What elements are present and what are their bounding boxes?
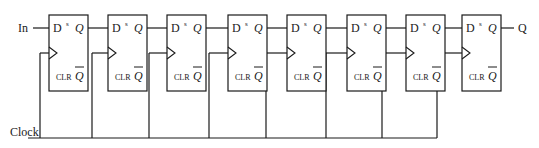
set-label: s: [66, 20, 69, 28]
clr-label: CLR: [115, 73, 131, 82]
d-flip-flop: DsQCLRQ: [406, 15, 445, 91]
q-output-label: Q: [254, 21, 263, 35]
q-bar-output-label: Q: [75, 69, 84, 83]
d-input-label: D: [171, 21, 180, 35]
clr-label: CLR: [469, 73, 485, 82]
d-input-label: D: [466, 21, 475, 35]
d-flip-flop: DsQCLRQ: [108, 15, 147, 91]
d-input-label: D: [53, 21, 62, 35]
q-output-label: Q: [432, 21, 441, 35]
clock-label: Clock: [10, 125, 39, 139]
q-output-label: Q: [193, 21, 202, 35]
input-label: In: [18, 21, 28, 35]
q-output-label: Q: [313, 21, 322, 35]
q-bar-output-label: Q: [373, 69, 382, 83]
d-flip-flop: DsQCLRQ: [287, 15, 326, 91]
q-output-label: Q: [75, 21, 84, 35]
d-input-label: D: [410, 21, 419, 35]
q-bar-output-label: Q: [432, 69, 441, 83]
q-bar-output-label: Q: [134, 69, 143, 83]
clr-label: CLR: [56, 73, 72, 82]
d-input-label: D: [112, 21, 121, 35]
q-output-label: Q: [373, 21, 382, 35]
output-label: Q: [518, 21, 527, 35]
q-bar-output-label: Q: [193, 69, 202, 83]
set-label: s: [125, 20, 128, 28]
clr-label: CLR: [235, 73, 251, 82]
d-flip-flop: DsQCLRQ: [462, 15, 501, 91]
d-flip-flop: DsQCLRQ: [167, 15, 206, 91]
d-input-label: D: [291, 21, 300, 35]
q-output-label: Q: [488, 21, 497, 35]
set-label: s: [479, 20, 482, 28]
clr-label: CLR: [413, 73, 429, 82]
set-label: s: [184, 20, 187, 28]
d-flip-flop: DsQCLRQ: [49, 15, 88, 91]
q-bar-output-label: Q: [254, 69, 263, 83]
set-label: s: [423, 20, 426, 28]
set-label: s: [245, 20, 248, 28]
set-label: s: [364, 20, 367, 28]
set-label: s: [304, 20, 307, 28]
clr-label: CLR: [174, 73, 190, 82]
d-flip-flop: DsQCLRQ: [228, 15, 267, 91]
d-input-label: D: [232, 21, 241, 35]
d-input-label: D: [351, 21, 360, 35]
shift-register-diagram: DsQCLRQDsQCLRQDsQCLRQDsQCLRQDsQCLRQDsQCL…: [0, 0, 539, 148]
d-flip-flop: DsQCLRQ: [347, 15, 386, 91]
q-output-label: Q: [134, 21, 143, 35]
clr-label: CLR: [354, 73, 370, 82]
q-bar-output-label: Q: [313, 69, 322, 83]
q-bar-output-label: Q: [488, 69, 497, 83]
clr-label: CLR: [294, 73, 310, 82]
